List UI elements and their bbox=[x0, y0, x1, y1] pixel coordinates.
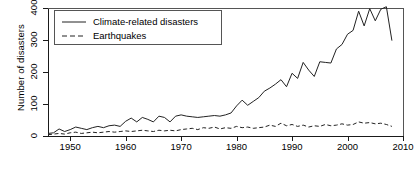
x-axis-tick bbox=[126, 136, 127, 141]
legend-label-climate: Climate-related disasters bbox=[93, 17, 198, 27]
y-axis-tick bbox=[43, 72, 48, 73]
x-axis-tick bbox=[348, 136, 349, 141]
x-axis-tick bbox=[292, 136, 293, 141]
x-axis-tick bbox=[181, 136, 182, 141]
y-axis-tick bbox=[43, 40, 48, 41]
x-axis-tick bbox=[403, 136, 404, 141]
legend-key-solid-line-icon bbox=[61, 17, 87, 27]
y-axis-tick bbox=[43, 104, 48, 105]
chart-figure: Number of disasters 0100200300400 195019… bbox=[0, 0, 420, 174]
legend-entry-climate: Climate-related disasters bbox=[61, 15, 198, 28]
x-axis-tick bbox=[70, 136, 71, 141]
legend-label-earthquakes: Earthquakes bbox=[93, 31, 146, 41]
series-line-dashed bbox=[48, 122, 392, 135]
legend-key-dashed-line-icon bbox=[61, 31, 87, 41]
legend: Climate-related disasters Earthquakes bbox=[54, 10, 222, 45]
y-axis-tick bbox=[43, 136, 48, 137]
y-axis-tick bbox=[43, 8, 48, 9]
x-axis-tick bbox=[237, 136, 238, 141]
legend-entry-earthquakes: Earthquakes bbox=[61, 29, 146, 42]
